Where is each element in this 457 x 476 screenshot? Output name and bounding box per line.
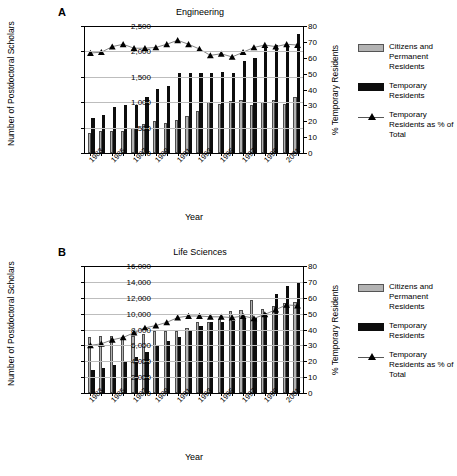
y-tick-label-left: 2,000 (91, 47, 151, 56)
bar-group (248, 26, 259, 153)
bar-group (183, 26, 194, 153)
legend-item[interactable]: Citizens and Permanent Residents (358, 42, 454, 72)
y-tick-mark-right (303, 393, 307, 394)
bar-temporary (243, 61, 246, 153)
y-tick-label-right: 60 (308, 53, 317, 62)
percent-line-marker-icon (358, 352, 384, 360)
y-tick-mark-right (303, 42, 307, 43)
legend-label: Temporary Residents (389, 81, 454, 101)
legend-item[interactable]: Citizens and Permanent Residents (358, 282, 454, 312)
bar-temporary (102, 115, 105, 153)
y-tick-label-right: 80 (308, 262, 317, 271)
legend-item[interactable]: Temporary Residents as % of Total (358, 110, 454, 140)
y-tick-mark-left (81, 282, 85, 283)
bar-group (280, 26, 291, 153)
legend-item[interactable]: Temporary Residents (358, 81, 454, 101)
legend-item[interactable]: Temporary Residents as % of Total (358, 350, 454, 380)
bar-group (151, 26, 162, 153)
bar-temporary (221, 72, 224, 153)
bar-temporary (232, 73, 235, 153)
y-tick-label-left: 1,000 (91, 98, 151, 107)
x-axis-label-b: Year (124, 452, 264, 462)
bar-group (118, 26, 129, 153)
bar-temporary (178, 73, 181, 153)
y-tick-label-left: 6,000 (91, 341, 151, 350)
y-tick-label-right: 70 (308, 37, 317, 46)
bar-group (259, 26, 270, 153)
bar-group (270, 26, 281, 153)
legend-a: Citizens and Permanent ResidentsTemporar… (358, 42, 454, 149)
bar-group (172, 26, 183, 153)
bar-temporary (167, 341, 170, 393)
y-tick-label-right: 60 (308, 293, 317, 302)
bar-group (216, 26, 227, 153)
legend-item[interactable]: Temporary Residents (358, 321, 454, 341)
y-tick-mark-right (303, 58, 307, 59)
y-tick-label-right: 0 (308, 389, 312, 398)
y-tick-label-right: 70 (308, 277, 317, 286)
x-axis-label-a: Year (124, 212, 264, 222)
temporary-swatch-icon (358, 83, 384, 91)
y-tick-mark-right (303, 330, 307, 331)
bar-group (162, 26, 173, 153)
bar-group (129, 26, 140, 153)
y-tick-label-left: 14,000 (91, 277, 151, 286)
bar-group (86, 26, 97, 153)
legend-label: Temporary Residents as % of Total (389, 350, 454, 380)
y-tick-mark-left (81, 266, 85, 267)
panel-letter-a: A (58, 6, 66, 18)
y-tick-mark-left (81, 77, 85, 78)
y-axis-label-left-a: Number of Postdoctoral Scholars (6, 34, 16, 146)
y-tick-mark-left (81, 298, 85, 299)
bar-temporary (221, 322, 224, 393)
legend-label: Temporary Residents as % of Total (389, 110, 454, 140)
y-tick-mark-left (81, 377, 85, 378)
y-tick-mark-left (81, 361, 85, 362)
bar-group (140, 26, 151, 153)
y-tick-label-right: 40 (308, 325, 317, 334)
bar-group (291, 26, 302, 153)
y-tick-label-right: 50 (308, 309, 317, 318)
figure-root: A Engineering Number of Postdoctoral Sch… (0, 0, 457, 476)
legend-label: Citizens and Permanent Residents (389, 282, 454, 312)
y-tick-label-left: 500 (91, 123, 151, 132)
panel-letter-b: B (58, 246, 66, 258)
bar-temporary (253, 58, 256, 153)
y-axis-label-right-b: % Temporary Residents (330, 274, 340, 386)
plot-area-engineering (84, 26, 304, 154)
y-tick-mark-left (81, 153, 85, 154)
bar-temporary (275, 45, 278, 153)
citizens-swatch-icon (358, 284, 384, 292)
panel-life-sciences: B Life Sciences Number of Postdoctoral S… (0, 240, 457, 476)
y-tick-label-right: 50 (308, 69, 317, 78)
bar-temporary (189, 73, 192, 153)
y-tick-mark-right (303, 282, 307, 283)
y-tick-label-right: 20 (308, 117, 317, 126)
y-tick-mark-right (303, 137, 307, 138)
y-tick-label-left: 12,000 (91, 293, 151, 302)
temporary-swatch-icon (358, 323, 384, 331)
y-tick-label-right: 30 (308, 101, 317, 110)
legend-label: Citizens and Permanent Residents (389, 42, 454, 72)
bar-temporary (286, 46, 289, 153)
y-tick-label-right: 30 (308, 341, 317, 350)
bar-temporary (199, 326, 202, 393)
y-tick-label-left: 1,500 (91, 72, 151, 81)
y-tick-mark-left (81, 393, 85, 394)
bar-temporary (167, 86, 170, 153)
bar-temporary (199, 73, 202, 153)
y-tick-mark-right (303, 345, 307, 346)
y-tick-mark-left (81, 330, 85, 331)
y-tick-label-right: 10 (308, 133, 317, 142)
bar-temporary (264, 46, 267, 153)
bar-temporary (210, 322, 213, 393)
bar-series-a (85, 26, 303, 153)
bar-group (108, 26, 119, 153)
y-tick-mark-left (81, 51, 85, 52)
y-tick-mark-right (303, 105, 307, 106)
y-tick-mark-right (303, 266, 307, 267)
bar-group (97, 26, 108, 153)
panel-engineering: A Engineering Number of Postdoctoral Sch… (0, 0, 457, 236)
y-tick-label-right: 40 (308, 85, 317, 94)
y-tick-label-right: 80 (308, 22, 317, 31)
